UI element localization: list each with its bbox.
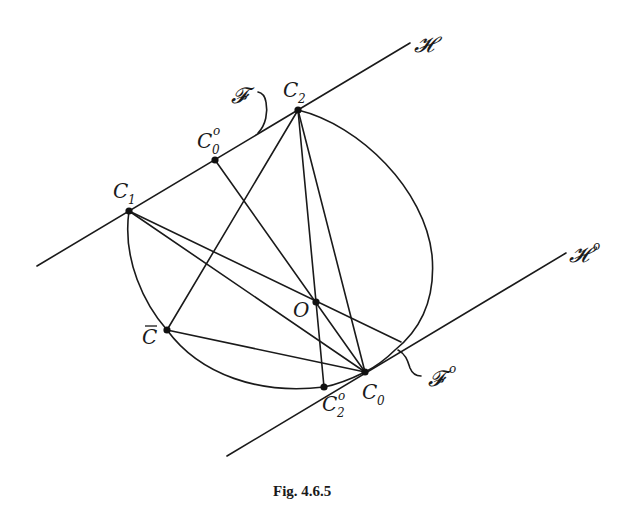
label-C2o: C o 2 <box>322 389 345 420</box>
label-C0: C 0 <box>362 380 385 408</box>
convex-curve-left-arc <box>128 211 167 330</box>
label-H: 𝓗 <box>414 32 443 57</box>
svg-text:o: o <box>213 124 220 138</box>
svg-text:𝓗: 𝓗 <box>414 32 443 57</box>
svg-text:0: 0 <box>377 394 385 408</box>
point-C1 <box>125 207 132 214</box>
svg-text:C: C <box>197 129 212 153</box>
point-C2o <box>320 383 327 390</box>
label-C0o: C o 0 <box>197 124 220 157</box>
label-F0: 𝓕 o <box>428 362 456 391</box>
label-C2: C 2 <box>283 78 306 106</box>
svg-text:1: 1 <box>128 193 136 207</box>
svg-text:0: 0 <box>212 143 220 157</box>
svg-text:O: O <box>293 298 309 322</box>
figure-caption: Fig. 4.6.5 <box>273 483 331 499</box>
svg-text:o: o <box>593 239 600 253</box>
point-C0o <box>211 156 218 163</box>
label-C1: C 1 <box>113 179 136 207</box>
label-F: 𝓕 <box>231 83 255 108</box>
svg-text:C: C <box>283 78 298 102</box>
face-F-bracket <box>258 92 267 133</box>
point-O <box>312 298 319 305</box>
label-H0: 𝓗 o <box>569 239 600 267</box>
svg-text:o: o <box>338 389 345 403</box>
geometry-figure: 𝓗 𝓗 o 𝓕 𝓕 o C 1 C 2 C o 0 O C C 0 C o 2 <box>0 0 637 507</box>
svg-text:𝓕: 𝓕 <box>231 83 255 108</box>
label-O: O <box>293 298 309 322</box>
svg-text:o: o <box>449 362 456 376</box>
svg-text:C: C <box>322 392 337 416</box>
point-C0 <box>361 368 368 375</box>
line-H <box>37 43 410 266</box>
svg-text:2: 2 <box>297 92 306 106</box>
face-F0-bracket <box>398 350 421 376</box>
chord-C0o-C0 <box>215 160 365 372</box>
chord-C2-C2o <box>298 110 324 387</box>
point-C2 <box>294 106 301 113</box>
chord-C2-Cbar <box>167 110 298 330</box>
point-Cbar <box>163 326 170 333</box>
label-Cbar: C <box>142 325 157 349</box>
svg-text:C: C <box>113 179 128 203</box>
svg-text:C: C <box>142 325 157 349</box>
svg-text:C: C <box>362 380 377 404</box>
convex-curve-bottom-arc <box>167 330 365 389</box>
svg-text:2: 2 <box>336 406 345 420</box>
